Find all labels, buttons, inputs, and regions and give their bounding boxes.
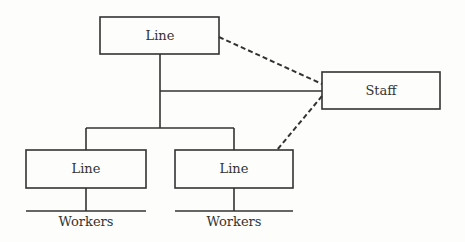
staff-dashed-bottom — [277, 96, 322, 150]
right-line-label: Line — [220, 161, 249, 176]
right-workers-label: Workers — [207, 214, 262, 229]
staff-label: Staff — [365, 83, 398, 98]
staff-dashed-top — [219, 37, 322, 84]
top-line-label: Line — [146, 28, 175, 43]
left-workers-label: Workers — [59, 214, 114, 229]
left-line-label: Line — [72, 161, 101, 176]
org-chart-diagram: Line Staff Line Line Workers Workers — [0, 0, 465, 242]
